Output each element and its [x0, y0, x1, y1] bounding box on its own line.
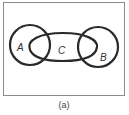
set-c-label: C: [58, 45, 66, 56]
figure-caption: (a): [59, 100, 70, 110]
venn-diagram-figure: A C B (a): [0, 0, 129, 115]
set-a-label: A: [16, 42, 24, 53]
set-b-label: B: [100, 52, 107, 63]
